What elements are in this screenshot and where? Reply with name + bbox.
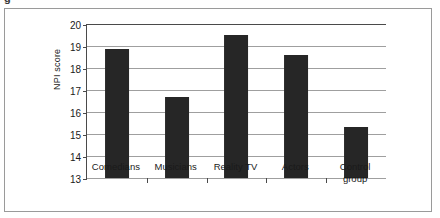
y-tick-label-15: 15 xyxy=(70,130,81,141)
x-axis-label-line: Control xyxy=(325,161,385,173)
bar-cell xyxy=(147,24,207,178)
y-tick-label-19: 19 xyxy=(70,42,81,53)
x-axis-label: Controlgroup xyxy=(325,161,385,185)
x-axis-label-line: Reality TV xyxy=(206,161,266,173)
x-axis-label-line: Actors xyxy=(265,161,325,173)
x-axis-label: Comedians xyxy=(86,161,146,173)
x-axis-label: Actors xyxy=(265,161,325,173)
x-axis-label-line: Comedians xyxy=(86,161,146,173)
bars-group xyxy=(87,24,386,178)
x-axis-label-line: Musicians xyxy=(146,161,206,173)
y-tick-mark-13 xyxy=(83,179,87,180)
x-tick-mark xyxy=(147,178,148,183)
chart-figure: g NPI score 2019181716151413 ComediansMu… xyxy=(0,0,440,218)
x-axis-label: Reality TV xyxy=(206,161,266,173)
x-tick-mark xyxy=(207,178,208,183)
plot-wrapper: NPI score 2019181716151413 ComediansMusi… xyxy=(0,0,440,218)
y-tick-label-16: 16 xyxy=(70,108,81,119)
y-tick-label-20: 20 xyxy=(70,20,81,31)
y-axis-title: NPI score xyxy=(52,76,62,90)
bar xyxy=(284,55,308,178)
y-tick-label-18: 18 xyxy=(70,64,81,75)
bar xyxy=(105,49,129,178)
y-tick-label-17: 17 xyxy=(70,86,81,97)
bar-cell xyxy=(207,24,267,178)
x-axis-label: Musicians xyxy=(146,161,206,173)
bar-cell xyxy=(326,24,386,178)
y-tick-label-13: 13 xyxy=(70,174,81,185)
x-axis-label-line: group xyxy=(325,173,385,185)
x-tick-mark xyxy=(266,178,267,183)
y-tick-label-14: 14 xyxy=(70,152,81,163)
plot-area: 2019181716151413 xyxy=(86,24,386,179)
bar xyxy=(225,35,249,178)
bar-cell xyxy=(266,24,326,178)
bar-cell xyxy=(87,24,147,178)
